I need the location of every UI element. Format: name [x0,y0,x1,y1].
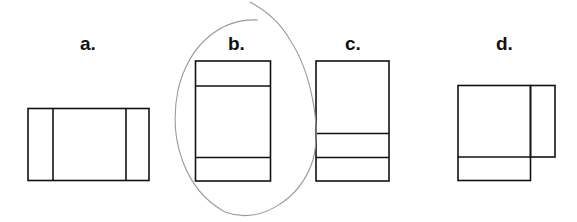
option-a-figure[interactable] [28,109,149,181]
hand-drawn-circle-annotation [175,2,316,215]
option-c-label: c. [345,33,361,54]
option-a-label: a. [80,33,96,54]
net-diagram-figure: a. b. c. d. [0,0,577,222]
option-b-figure[interactable] [196,61,271,181]
option-d-figure[interactable] [458,86,555,181]
option-c-figure[interactable] [316,61,389,181]
option-d-label: d. [496,33,513,54]
option-b-label: b. [228,33,245,54]
